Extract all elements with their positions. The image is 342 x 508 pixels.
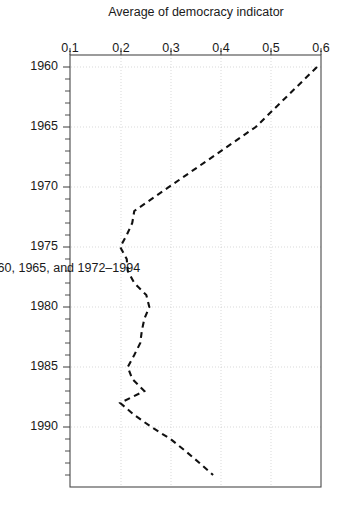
rotated-plot-wrapper: 1960 1965 1970 1975 1980 1985 1990 Value…: [0, 0, 342, 508]
y-tick-label-0-3: 0.3: [162, 41, 179, 55]
y-tick-label-0-5: 0.5: [262, 41, 279, 55]
y-tick-label-0-6: 0.6: [312, 41, 329, 55]
y-tick-label-0-4: 0.4: [212, 41, 229, 55]
x-tick-label-1985: 1985: [30, 359, 58, 373]
x-tick-label-1970: 1970: [30, 179, 58, 193]
y-tick-label-0-1: 0.1: [61, 41, 78, 55]
x-tick-label-1960: 1960: [30, 59, 58, 73]
x-tick-label-1980: 1980: [30, 299, 58, 313]
y-tick-label-0-2: 0.2: [112, 41, 129, 55]
democracy-indicator-line-chart: 1960 1965 1970 1975 1980 1985 1990 Value…: [0, 0, 342, 508]
chart-figure: 1960 1965 1970 1975 1980 1985 1990 Value…: [0, 0, 342, 508]
x-axis-title: Values plotted for 1960, 1965, and 1972–…: [0, 261, 140, 275]
x-tick-label-1990: 1990: [30, 419, 58, 433]
x-tick-label-1965: 1965: [30, 119, 58, 133]
y-axis-title: Average of democracy indicator: [108, 5, 284, 19]
x-tick-label-1975: 1975: [30, 239, 58, 253]
